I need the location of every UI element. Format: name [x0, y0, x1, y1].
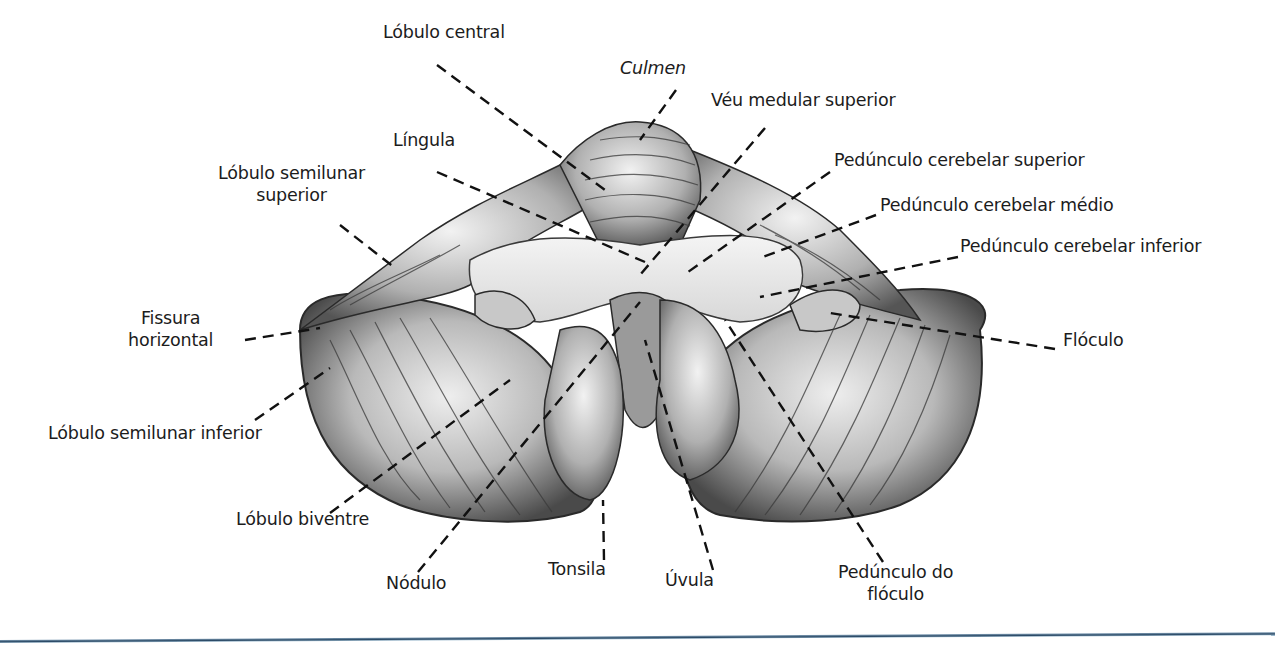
label-pedunculo-do-floculo: Pedúnculo doflóculo	[838, 561, 953, 605]
leader-line-floculo	[830, 313, 1055, 349]
leader-line-pedunculo-cerebelar-inferior	[760, 257, 958, 297]
leader-line-veu-medular-superior	[640, 128, 765, 275]
leader-line-lobulo-semilunar-superior	[340, 225, 395, 268]
leader-line-lingula	[437, 172, 645, 262]
leader-line-lobulo-semilunar-inferior	[255, 368, 330, 420]
label-lingula: Língula	[393, 129, 455, 151]
label-culmen: Culmen	[620, 57, 686, 79]
leader-line-pedunculo-do-floculo	[725, 320, 883, 562]
label-pedunculo-cerebelar-medio: Pedúnculo cerebelar médio	[880, 194, 1114, 216]
leader-line-pedunculo-cerebelar-medio	[760, 215, 876, 258]
label-lobulo-central: Lóbulo central	[383, 21, 505, 43]
cerebellum-figure: Lóbulo centralCulmenVéu medular superior…	[0, 0, 1275, 662]
label-veu-medular-superior: Véu medular superior	[711, 89, 895, 111]
leader-line-lobulo-biventre	[330, 380, 510, 513]
label-floculo: Flóculo	[1063, 329, 1124, 351]
label-pedunculo-cerebelar-inferior: Pedúnculo cerebelar inferior	[960, 235, 1201, 257]
leader-line-fissura-horizontal	[245, 328, 320, 340]
label-pedunculo-cerebelar-superior: Pedúnculo cerebelar superior	[834, 149, 1084, 171]
leader-line-lobulo-central	[437, 65, 605, 190]
leader-line-tonsila	[603, 500, 604, 560]
label-lobulo-semilunar-superior: Lóbulo semilunarsuperior	[218, 162, 365, 206]
leader-line-culmen	[640, 90, 676, 140]
label-uvula: Úvula	[665, 569, 714, 591]
leader-line-nodulo	[418, 302, 640, 572]
leader-line-uvula	[645, 340, 713, 570]
label-lobulo-biventre: Lóbulo biventre	[236, 508, 369, 530]
label-fissura-horizontal: Fissurahorizontal	[128, 307, 213, 351]
leader-line-pedunculo-cerebelar-superior	[688, 172, 830, 272]
label-nodulo: Nódulo	[386, 572, 446, 594]
label-tonsila: Tonsila	[548, 558, 606, 580]
label-lobulo-semilunar-inferior: Lóbulo semilunar inferior	[48, 422, 262, 444]
